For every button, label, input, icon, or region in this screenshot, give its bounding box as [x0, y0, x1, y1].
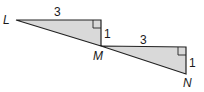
length-label-right-vertical: 1	[189, 56, 196, 70]
length-label-left-horizontal: 3	[54, 5, 61, 19]
triangle-right	[101, 46, 186, 74]
triangle-left	[16, 20, 101, 46]
point-label-l: L	[3, 13, 10, 27]
point-label-m: M	[93, 49, 103, 63]
length-label-right-horizontal: 3	[140, 33, 147, 47]
length-label-left-vertical: 1	[104, 27, 111, 41]
point-label-n: N	[183, 76, 192, 90]
geometry-diagram: L M N 3 1 3 1	[0, 0, 204, 92]
